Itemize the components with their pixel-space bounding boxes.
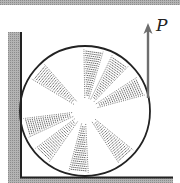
floor <box>8 178 173 183</box>
wheel-rim <box>20 46 150 176</box>
spoke <box>23 113 73 138</box>
spoke <box>69 124 88 173</box>
force-label: P <box>155 15 168 35</box>
spoke <box>35 119 77 162</box>
wheel <box>20 46 150 176</box>
spoke <box>32 64 77 104</box>
top-band <box>0 0 180 5</box>
spoke <box>96 77 145 107</box>
spoke <box>92 119 133 163</box>
spoke <box>84 49 103 99</box>
spokes <box>23 49 144 173</box>
wheel-diagram: P <box>0 0 180 183</box>
wall <box>8 32 21 183</box>
